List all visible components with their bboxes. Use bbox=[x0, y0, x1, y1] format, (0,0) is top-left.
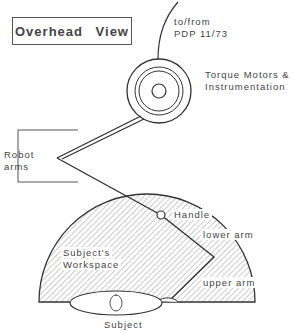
handle-icon bbox=[157, 211, 165, 219]
lower-arm-label: lower arm bbox=[201, 229, 256, 240]
torque-motor-icon bbox=[127, 59, 191, 123]
workspace-label-1: Subject's bbox=[61, 247, 112, 258]
motors-label-1: Torque Motors & bbox=[205, 69, 290, 80]
robot-arm-upper-link bbox=[57, 116, 144, 159]
motors-label-2: Instrumentation bbox=[205, 81, 285, 92]
upper-arm-label: upper arm bbox=[201, 277, 257, 288]
subject-label: Subject bbox=[104, 319, 143, 330]
handle-label: Handle bbox=[172, 209, 212, 220]
workspace-label-2: Workspace bbox=[61, 259, 121, 270]
robot-arms-label-1: Robot bbox=[4, 149, 34, 160]
cable-label-2: PDP 11/73 bbox=[174, 28, 228, 39]
title-box: Overhead View bbox=[12, 17, 132, 45]
page-title: Overhead View bbox=[15, 24, 129, 39]
cable-label-1: to/from bbox=[174, 16, 211, 27]
robot-arms-label-2: arms bbox=[4, 161, 29, 172]
